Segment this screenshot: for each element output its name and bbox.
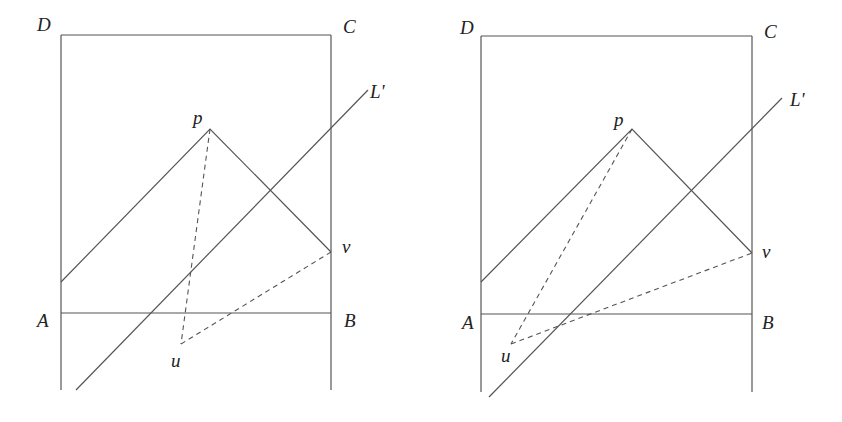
right-label-D: D: [459, 17, 474, 38]
right-label-p: p: [612, 109, 624, 130]
right-label-C: C: [764, 21, 777, 42]
left-path-through-p-to-v: [61, 129, 331, 282]
left-label-v: v: [342, 236, 351, 257]
right-path-through-p-to-v: [481, 129, 752, 282]
left-label-L-prime: L': [369, 81, 386, 102]
left-label-B: B: [344, 310, 356, 331]
left-label-u: u: [171, 350, 181, 371]
diagram-canvas: D C A B p v u L' D C A B p v u L': [0, 0, 842, 422]
left-label-A: A: [35, 310, 49, 331]
left-line-L-prime: [76, 90, 368, 390]
left-label-p: p: [191, 107, 203, 128]
left-label-D: D: [36, 14, 51, 35]
right-label-v: v: [762, 241, 771, 262]
left-label-C: C: [343, 16, 356, 37]
right-dashed-p-u: [511, 129, 632, 344]
right-dashed-u-v: [511, 253, 752, 344]
right-line-L-prime: [489, 98, 782, 397]
right-label-u: u: [501, 345, 511, 366]
left-panel: D C A B p v u L': [35, 14, 386, 390]
right-label-L-prime: L': [789, 89, 806, 110]
left-dashed-u-v: [181, 252, 331, 344]
left-dashed-p-u: [181, 129, 210, 344]
right-label-A: A: [460, 312, 474, 333]
right-label-B: B: [762, 312, 774, 333]
right-panel: D C A B p v u L': [459, 17, 806, 397]
